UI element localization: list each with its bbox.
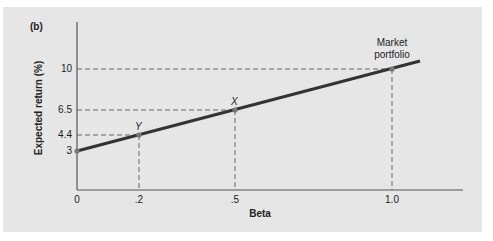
point-intercept xyxy=(74,148,79,153)
point-y xyxy=(136,132,141,137)
security-market-line xyxy=(77,61,420,151)
label-y: Y xyxy=(135,121,143,132)
x-tick-0-2: .2 xyxy=(135,194,144,205)
point-x xyxy=(232,107,237,112)
chart-svg: (b) Y X Market portfolio 3 4.4 6.5 10 0 … xyxy=(0,0,493,241)
y-tick-6-5: 6.5 xyxy=(58,104,72,115)
point-market xyxy=(389,66,394,71)
panel-label: (b) xyxy=(30,21,43,32)
x-tick-0: 0 xyxy=(74,194,80,205)
label-market-line2: portfolio xyxy=(374,49,410,60)
y-axis-title: Expected return (%) xyxy=(33,61,44,155)
x-tick-1-0: 1.0 xyxy=(385,194,399,205)
label-market-line1: Market xyxy=(377,37,408,48)
y-tick-4-4: 4.4 xyxy=(58,129,72,140)
label-x: X xyxy=(230,96,238,107)
guide-lines xyxy=(77,69,392,190)
y-tick-3: 3 xyxy=(66,145,72,156)
x-axis-title: Beta xyxy=(249,208,271,219)
y-tick-10: 10 xyxy=(61,63,73,74)
x-tick-0-5: .5 xyxy=(231,194,240,205)
